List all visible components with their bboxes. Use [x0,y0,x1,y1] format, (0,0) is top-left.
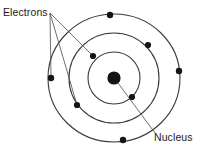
electron-inner-lower-right [129,94,135,100]
electron-outer-right [176,68,182,74]
electron-middle-lower-left [74,102,80,108]
nucleus-icon [107,71,120,84]
electron-outer-bottom [120,137,126,143]
electron-middle-right [145,42,151,48]
electrons-label: Electrons [3,7,48,18]
electrons-leader-line-2 [50,13,51,78]
electron-inner-upper-left [90,53,96,59]
nucleus-label: Nucleus [154,132,193,143]
electron-outer-left [48,75,54,81]
electron-outer-top [107,12,113,18]
atom-diagram: Electrons Nucleus [0,0,200,157]
